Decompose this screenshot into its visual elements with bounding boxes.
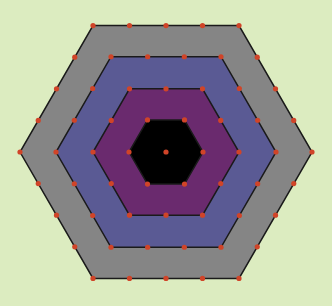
grid-dot	[200, 149, 205, 154]
grid-dot	[163, 86, 168, 91]
grid-dot	[127, 276, 132, 281]
grid-dot	[163, 276, 168, 281]
grid-dot	[236, 149, 241, 154]
grid-dot	[163, 23, 168, 28]
grid-dot	[145, 54, 150, 59]
grid-dot	[218, 118, 223, 123]
grid-dot	[182, 245, 187, 250]
grid-dot	[255, 55, 260, 60]
grid-dot	[236, 23, 241, 28]
grid-dot	[17, 149, 22, 154]
grid-dot	[273, 86, 278, 91]
grid-dot	[127, 86, 132, 91]
grid-dot	[200, 213, 205, 218]
grid-dot	[291, 118, 296, 123]
grid-dot	[90, 276, 95, 281]
grid-dot	[108, 54, 113, 59]
grid-dot	[53, 149, 58, 154]
grid-dot	[108, 245, 113, 250]
grid-dot	[90, 23, 95, 28]
grid-dot	[255, 244, 260, 249]
grid-dot	[291, 181, 296, 186]
diagram-canvas	[0, 0, 332, 306]
grid-dot	[127, 23, 132, 28]
grid-dot	[90, 149, 95, 154]
grid-dot	[255, 181, 260, 186]
grid-dot	[182, 54, 187, 59]
grid-dot	[36, 181, 41, 186]
grid-dot	[90, 86, 95, 91]
grid-dot	[218, 181, 223, 186]
grid-dot	[163, 213, 168, 218]
center-dot	[163, 149, 168, 154]
grid-dot	[72, 244, 77, 249]
grid-dot	[236, 276, 241, 281]
grid-dot	[237, 213, 242, 218]
grid-dot	[72, 118, 77, 123]
grid-dot	[145, 181, 150, 186]
grid-dot	[109, 181, 114, 186]
grid-dot	[127, 213, 132, 218]
grid-dot	[218, 245, 223, 250]
grid-dot	[255, 118, 260, 123]
hexagon-diagram	[0, 0, 332, 306]
grid-dot	[90, 213, 95, 218]
grid-dot	[109, 118, 114, 123]
grid-dot	[182, 181, 187, 186]
grid-dot	[182, 117, 187, 122]
grid-dot	[72, 181, 77, 186]
grid-dot	[273, 213, 278, 218]
grid-dot	[237, 86, 242, 91]
grid-dot	[145, 245, 150, 250]
grid-dot	[273, 149, 278, 154]
grid-dot	[200, 23, 205, 28]
grid-dot	[126, 149, 131, 154]
grid-dot	[309, 149, 314, 154]
grid-dot	[200, 276, 205, 281]
grid-dot	[145, 117, 150, 122]
grid-dot	[54, 213, 59, 218]
grid-dot	[200, 86, 205, 91]
grid-dot	[218, 54, 223, 59]
grid-dot	[36, 118, 41, 123]
grid-dot	[72, 55, 77, 60]
grid-dot	[54, 86, 59, 91]
